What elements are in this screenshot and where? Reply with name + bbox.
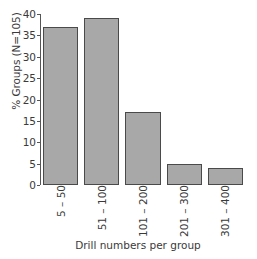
y-axis-tick-mark	[37, 35, 40, 36]
bar	[43, 27, 78, 185]
y-axis-tick-labels: 0510152025303540	[10, 0, 36, 259]
x-axis-tick-label-slot: 201 – 300	[164, 185, 205, 237]
x-axis-tick-label-slot: 301 – 400	[205, 185, 246, 237]
y-axis-tick-label: 35	[10, 30, 36, 40]
y-axis-tick-mark	[37, 142, 40, 143]
bar	[125, 112, 160, 185]
bars-layer	[40, 14, 246, 185]
y-axis-tick-label: 10	[10, 137, 36, 147]
y-axis-tick-label: 0	[10, 180, 36, 190]
bar-chart-figure: % Groups (N=105) 0510152025303540 5 – 50…	[0, 0, 257, 259]
x-axis-tick-label: 51 – 100	[96, 185, 107, 230]
y-axis-tick-label: 15	[10, 116, 36, 126]
y-axis-tick-label: 30	[10, 52, 36, 62]
x-axis-tick-label: 301 – 400	[220, 185, 231, 237]
x-axis-title: Drill numbers per group	[30, 239, 246, 251]
y-axis-tick-mark	[37, 164, 40, 165]
x-axis-tick-label-slot: 101 – 200	[122, 185, 163, 237]
y-axis-tick-label: 40	[10, 9, 36, 19]
plot-area	[40, 14, 246, 185]
y-axis-tick-mark	[37, 78, 40, 79]
x-axis-tick-labels: 5 – 5051 – 100101 – 200201 – 300301 – 40…	[40, 185, 246, 237]
bar	[84, 18, 119, 185]
x-axis-tick-label-slot: 51 – 100	[81, 185, 122, 237]
y-axis-tick-label: 20	[10, 95, 36, 105]
x-axis-tick-label: 101 – 200	[137, 185, 148, 237]
bar	[208, 168, 243, 185]
y-axis-tick-label: 25	[10, 73, 36, 83]
y-axis-tick-label: 5	[10, 159, 36, 169]
y-axis-tick-mark	[37, 121, 40, 122]
y-axis-tick-mark	[37, 57, 40, 58]
x-axis-tick-label: 5 – 50	[55, 185, 66, 217]
x-axis-tick-label-slot: 5 – 50	[40, 185, 81, 237]
y-axis-tick-mark	[37, 100, 40, 101]
y-axis-tick-mark	[37, 14, 40, 15]
bar	[167, 164, 202, 185]
x-axis-tick-label: 201 – 300	[179, 185, 190, 237]
